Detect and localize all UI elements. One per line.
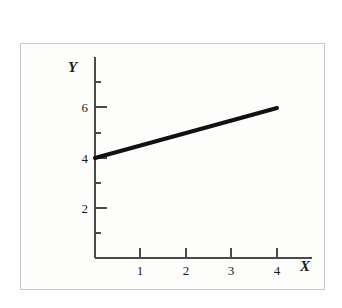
x-axis-label: X (300, 259, 310, 274)
x-tick-label-2: 2 (178, 264, 194, 277)
data-line-series-1 (95, 108, 277, 158)
y-tick-label-2: 2 (74, 202, 88, 215)
y-axis-label: Y (68, 60, 77, 75)
x-axis-ticks (140, 248, 277, 258)
axis-lines (95, 57, 312, 258)
y-tick-label-4: 4 (74, 152, 88, 165)
figure-screenshot: Y X 6 4 2 1 2 3 4 (0, 0, 342, 308)
x-tick-label-3: 3 (223, 264, 239, 277)
y-tick-label-6: 6 (74, 101, 88, 114)
line-chart-plot (0, 0, 342, 308)
x-tick-label-1: 1 (132, 264, 148, 277)
x-tick-label-4: 4 (269, 264, 285, 277)
